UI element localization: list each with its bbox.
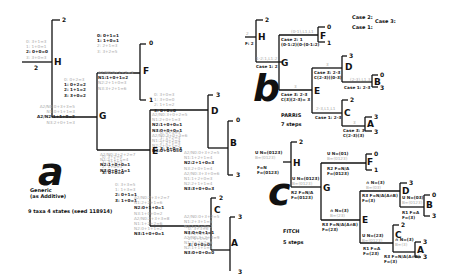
c-rows: A2/N0:2+3+2=7 N1:2+2+1=6 N2:0+1+0=1 N3:1…: [134, 195, 169, 237]
b-u-c: U N=(03) B=(0123): [402, 195, 424, 205]
leaf-a-top-b: 3: [374, 113, 378, 120]
node-h-c: H: [293, 158, 301, 168]
leaf-f-top-c: 0: [374, 150, 378, 157]
b-branch-b: (2-3),L1,3: [350, 77, 370, 82]
d-case-b: Case 3: 2-3 C(2-3)((0-3): [314, 70, 342, 80]
d-states: 0: 3+0=3 1: 3+0=0 2: 1+1=2 3: 0+0=0: [154, 92, 176, 113]
g-branch-b: 1-2:1,L1:2: [256, 56, 277, 61]
e-i-c: ∩ N=(3) B=(23): [330, 208, 349, 218]
e-branch-b: 3: [294, 84, 297, 89]
node-c-b: C: [344, 108, 351, 118]
panel-a-caption: Generic (as Additive): [30, 187, 66, 199]
leaf-b-top-c: 0: [432, 191, 436, 198]
node-a-b: A: [367, 119, 374, 129]
legend-case-1: Case 1:: [352, 24, 373, 30]
leaf-b-top: 0: [236, 116, 240, 123]
g-u-c: U N=(0123) B=(0123): [292, 176, 319, 186]
f-case-b: Case 2: 1 (0-1:2)(0-(0-1:2): [281, 37, 320, 47]
leaf-c-top-c: 2: [401, 221, 405, 228]
panel-a-info: 9 taxa 4 states (seed 118914): [28, 208, 112, 214]
leaf-f-top-b: 0: [327, 23, 331, 30]
node-g-b: G: [281, 58, 288, 68]
leaf-a-bot-b: 3: [374, 128, 378, 135]
c-branch-b: 2-3,L1,L1: [316, 106, 336, 111]
legend-case-3: Case 3:: [375, 18, 396, 24]
leaf-h-top: 2: [62, 16, 66, 23]
c-r-c: R1 F=A F=(23): [363, 246, 380, 256]
b-case-b: Case 1: 2-3: [344, 85, 370, 90]
a-branch-b: 3: [353, 120, 356, 125]
e-rows-box: A2/N0:3+2+2=7 N1:2+1+1=4 N2:1+0+0=1 N3:0…: [100, 152, 135, 173]
f-u-c: U N=(01) B=(0123): [327, 151, 349, 161]
e-case-b: Case 3: 2-3 C(3)(2-3)= 3: [281, 92, 310, 102]
node-f-b: F: [320, 31, 326, 41]
leaf-d-top-c: 3: [409, 179, 413, 186]
node-d-b: D: [345, 62, 352, 72]
node-a: A: [231, 238, 238, 248]
node-g: G: [99, 111, 106, 121]
d-r-c: R3 F=N/A(A∩B) F=(3): [362, 193, 398, 203]
d-branch-b: 3: [326, 62, 329, 67]
root-label-b: F: 2: [245, 41, 254, 46]
node-h: H: [54, 57, 62, 67]
node-b: B: [230, 138, 237, 148]
e-r-c: R3 F=N/A(A∩B) F=(23): [322, 222, 358, 232]
leaf-f-bot: 1: [149, 96, 153, 103]
leaf-f-bot-b: 1: [327, 39, 331, 46]
a-rows: A2/N0:0+3+2=5 N1:2+3+1=5 N2:1+1+0=2 N3:0…: [184, 214, 219, 256]
node-d: D: [211, 106, 218, 116]
panel-c-label: c: [268, 170, 291, 214]
leaf-f-bot-c: 1: [374, 166, 378, 173]
g-r-c: R2 F=N/A F=(0123): [291, 190, 313, 200]
root-value-b: 2: [246, 31, 249, 36]
f-states: 0: 0+1=1 1: 1+0=1 2: 2+1=3 3: 3+2=5: [97, 33, 119, 54]
panel-b-steps: 7 steps: [281, 121, 302, 127]
node-e-c: E: [362, 215, 368, 225]
leaf-h-top-b: 2: [265, 16, 269, 23]
node-b-c: B: [426, 200, 433, 210]
leaf-d-top: 3: [216, 91, 220, 98]
b-rows: A2/N0:0+3+2=5 N1:1+2+1=4 N2:2+1+0=3 N3:2…: [184, 150, 219, 192]
panel-b-label: b: [253, 66, 280, 110]
leaf-a-bot-c: 3: [423, 253, 427, 260]
node-f-c: F: [367, 157, 373, 167]
g-states: 0: 0+2=3 1: 0+2=2 2: 1+1=2 3: 3+0=2: [64, 77, 86, 98]
f-rows: A2/N0:0+1+2=3 N1:1+0+1=2 N2:2+1+0=3 N3:3…: [98, 70, 133, 91]
node-g-c: G: [323, 183, 330, 193]
leaf-a-bot: 3: [238, 268, 242, 275]
root-value: 2: [34, 64, 38, 71]
leaf-d-top-b: 3: [349, 52, 353, 59]
node-e: E: [152, 146, 158, 156]
d-i-c: ∩ N=(3) B=(03): [366, 180, 385, 190]
f-branch-b: (0-1),L1,L1: [291, 29, 314, 34]
a-i-c: ∩ N=(3) B=(3): [395, 237, 414, 247]
leaf-a-top: 3: [238, 213, 242, 220]
leaf-a-top-c: 3: [423, 238, 427, 245]
h-u-c: U N=(0123) B=(0123): [255, 150, 282, 160]
node-h-b: H: [258, 32, 266, 42]
leaf-b-bot-b: 3: [380, 84, 384, 91]
leaf-c-top-b: 2: [350, 96, 354, 103]
b-states: 0: 0+3=3 1: 1+2=3 2: 2+1=3 3: 3+0=3: [160, 130, 182, 151]
node-e-b: E: [314, 86, 320, 96]
leaf-f-top: 0: [149, 39, 153, 46]
a-case-b: Case 3: 3 C(2-3)(3): [343, 128, 365, 138]
leaf-h-top-c: 2: [299, 138, 303, 145]
leaf-b-bot-c: 3: [432, 212, 436, 219]
panel-b-method: PARRIS: [281, 112, 301, 118]
leaf-b-bot: 3: [236, 171, 240, 178]
g-rows: A2/N0:0+3+3=5 N1:0+1+1=3 A2/N2:1+1+0=2 N…: [37, 104, 75, 125]
node-f: F: [143, 66, 149, 76]
panel-c-method: FITCH: [283, 228, 300, 234]
h-states: 0: 3+1=3 1: 1+0=1 2: 0+0=0 3: 3+0=3: [26, 39, 48, 60]
a-r-c: R3 F=N/A(A∩B) F=(3): [384, 254, 420, 264]
c-case-b: Case 1: 2-3: [315, 115, 341, 120]
b-r-c: R1 F=A F=(3): [402, 210, 419, 220]
leaf-c-top: 2: [219, 194, 223, 201]
legend-case-2: Case 2:: [352, 14, 373, 20]
c-u-c: U N=(23) B=(0123): [362, 233, 384, 243]
f-r-c: R2 F=N/A F=(0123): [327, 166, 349, 176]
panel-c-steps: 5 steps: [283, 239, 304, 245]
